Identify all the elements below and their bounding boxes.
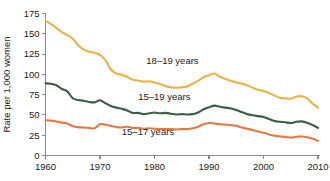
x-tick-label: 2000: [253, 161, 274, 172]
x-tick-label: 1960: [35, 161, 56, 172]
y-tick-label: 75: [29, 89, 40, 100]
y-tick-label: 100: [24, 69, 40, 80]
data-series-group: [46, 21, 319, 141]
series-annotations-group: 18–19 years15–19 years15–17 years: [122, 55, 199, 137]
series-line-15-19-years: [46, 83, 319, 128]
teen-birth-rate-chart: Rate per 1,000 women 0255075100125150175…: [0, 0, 330, 181]
y-axis-ticks: 0255075100125150175: [24, 8, 46, 161]
x-tick-label: 1990: [198, 161, 219, 172]
series-annotation-label: 18–19 years: [146, 55, 199, 66]
series-line-15-17-years: [46, 120, 319, 141]
y-tick-label: 0: [34, 150, 39, 161]
y-tick-label: 175: [24, 8, 40, 19]
y-tick-label: 150: [24, 28, 40, 39]
y-axis-title: Rate per 1,000 women: [1, 36, 12, 132]
y-axis-title-group: Rate per 1,000 women: [1, 36, 12, 132]
x-tick-label: 2010: [307, 161, 328, 172]
x-axis-ticks: 196019701980199020002010: [35, 156, 329, 172]
y-tick-label: 125: [24, 48, 40, 59]
y-tick-label: 50: [29, 109, 40, 120]
series-annotation-label: 15–17 years: [122, 126, 175, 137]
y-tick-label: 25: [29, 130, 40, 141]
x-tick-label: 1970: [89, 161, 110, 172]
chart-plot-area: Rate per 1,000 women 0255075100125150175…: [0, 0, 330, 181]
series-annotation-label: 15–19 years: [138, 91, 191, 102]
x-tick-label: 1980: [144, 161, 165, 172]
